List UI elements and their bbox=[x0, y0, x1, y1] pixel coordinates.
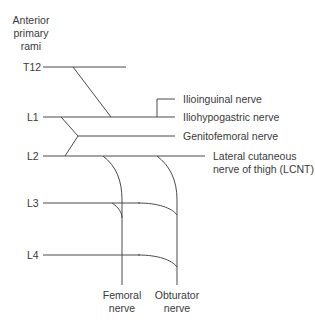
l3-femoral-branch bbox=[112, 203, 122, 218]
iliohypogastric-nerve-label: Iliohypogastric nerve bbox=[183, 111, 279, 123]
l2-obturator-branch bbox=[157, 156, 177, 200]
l2-femoral-branch bbox=[103, 156, 122, 200]
t12-to-l1-connector bbox=[73, 67, 111, 117]
genitofemoral-nerve-label: Genitofemoral nerve bbox=[183, 130, 278, 142]
lcnt-label-line-2: nerve of thigh (LCNT) bbox=[213, 163, 314, 175]
level-label-l4: L4 bbox=[27, 249, 39, 261]
header-label: Anterior primary rami bbox=[13, 14, 50, 52]
l3-obturator-branch bbox=[138, 203, 177, 215]
level-label-l2: L2 bbox=[27, 150, 39, 162]
level-label-l1: L1 bbox=[27, 111, 39, 123]
level-label-l3: L3 bbox=[27, 197, 39, 209]
ilioinguinal-nerve-label: Ilioinguinal nerve bbox=[183, 93, 262, 105]
obturator-label-line-2: nerve bbox=[164, 302, 190, 314]
lcnt-label-line-1: Lateral cutaneous bbox=[213, 150, 296, 162]
lumbar-plexus-diagram: Anterior primary rami T12 L1 L2 L3 L4 bbox=[0, 0, 315, 327]
femoral-label-line-2: nerve bbox=[109, 302, 135, 314]
header-line-3: rami bbox=[21, 40, 41, 52]
ilioinguinal-branch-line bbox=[157, 99, 175, 117]
level-label-t12: T12 bbox=[23, 61, 41, 73]
l4-obturator-branch bbox=[138, 255, 177, 267]
header-line-1: Anterior bbox=[13, 14, 50, 26]
l1-genitofemoral-connector bbox=[61, 117, 78, 136]
obturator-label-line-1: Obturator bbox=[155, 289, 200, 301]
header-line-2: primary bbox=[13, 27, 49, 39]
femoral-label-line-1: Femoral bbox=[103, 289, 142, 301]
l2-genitofemoral-connector bbox=[65, 136, 78, 156]
